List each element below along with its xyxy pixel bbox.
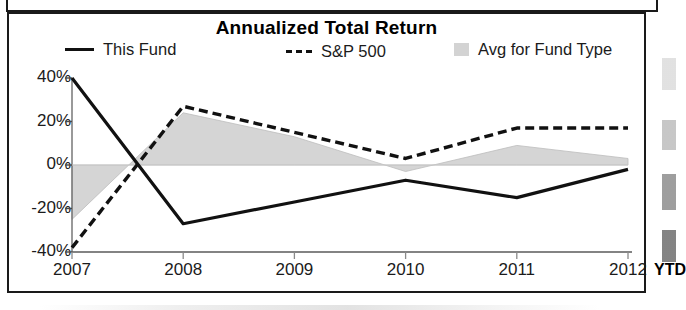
legend-item-sp500[interactable]: S&P 500	[286, 42, 386, 61]
legend-label-avg-for-fund-type: Avg for Fund Type	[478, 40, 612, 59]
chart-svg	[9, 64, 644, 293]
x-axis-tick-2007: 2007	[53, 260, 91, 280]
dashed-line-swatch-icon	[286, 50, 312, 53]
x-axis-tick-2011: 2011	[499, 260, 536, 280]
solid-line-swatch-icon	[65, 48, 94, 51]
chart-title: Annualized Total Return	[9, 17, 644, 39]
area-swatch-icon	[454, 43, 469, 56]
legend-item-avg-for-fund-type[interactable]: Avg for Fund Type	[454, 40, 612, 59]
scan-artifact-bottom-smudge	[40, 305, 600, 310]
plot-area	[9, 64, 644, 293]
x-axis-tick-2009: 2009	[275, 260, 313, 280]
x-axis-tick-2012: 2012	[609, 260, 647, 280]
x-axis-tick-2008: 2008	[164, 260, 202, 280]
annualized-total-return-panel: Annualized Total Return This Fund S&P 50…	[7, 12, 646, 293]
scan-artifact-top-box	[6, 0, 658, 12]
x-axis-tick-labels: 200720082009201020112012YTD	[9, 260, 644, 286]
x-axis-tick-2010: 2010	[387, 260, 425, 280]
legend-item-this-fund[interactable]: This Fund	[65, 40, 176, 59]
series-line-sp500	[72, 106, 628, 247]
legend-label-sp500: S&P 500	[321, 42, 386, 61]
x-axis-ytd-label: YTD	[654, 261, 686, 279]
chart-legend: This Fund S&P 500 Avg for Fund Type	[9, 40, 644, 62]
legend-label-this-fund: This Fund	[103, 40, 176, 59]
